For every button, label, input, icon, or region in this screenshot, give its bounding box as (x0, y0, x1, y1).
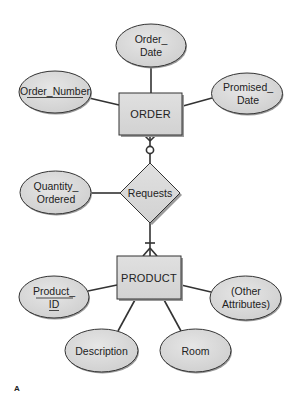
attribute-label: Ordered (37, 193, 76, 205)
relationship-requests: Requests (120, 163, 182, 225)
er-diagram: Order_ Date Order_Number Promised_ Date … (0, 0, 302, 394)
figure-label: A (14, 384, 20, 393)
attribute-other-attributes: (Other Attributes) (210, 276, 282, 322)
edge-description (118, 298, 136, 331)
attribute-label: Order_ (135, 33, 168, 45)
attribute-label: Date (140, 46, 162, 58)
attribute-order-number: Order_Number (19, 71, 92, 115)
edge-order-number (89, 98, 119, 105)
attribute-quantity-ordered: Quantity_ Ordered (20, 171, 92, 216)
edge-promised-date (183, 98, 212, 106)
attribute-product-id: Product_ ID (19, 276, 90, 320)
edge-other-attributes (181, 285, 211, 292)
attribute-label: Description (75, 345, 128, 357)
relationship-label: Requests (128, 187, 172, 199)
attribute-label: Date (237, 94, 259, 106)
attribute-label: ID (49, 298, 60, 310)
edge-room (163, 298, 181, 331)
attribute-label: (Other (231, 285, 261, 297)
attribute-order-date: Order_ Date (116, 24, 187, 69)
edge-product-id (88, 285, 117, 291)
entity-product: PRODUCT (117, 256, 183, 301)
attribute-label: Promised_ (223, 81, 273, 93)
attribute-description: Description (65, 329, 139, 374)
attribute-label: Attributes) (222, 298, 270, 310)
attribute-room: Room (160, 329, 232, 374)
attribute-label: Product_ (33, 285, 75, 297)
attribute-promised-date: Promised_ Date (212, 73, 284, 116)
attribute-label: Order_Number (20, 85, 91, 97)
entity-order: ORDER (119, 93, 184, 137)
entity-label: ORDER (130, 108, 171, 120)
entity-label: PRODUCT (121, 272, 177, 284)
attribute-label: Room (181, 345, 209, 357)
attribute-label: Quantity_ (34, 180, 79, 192)
